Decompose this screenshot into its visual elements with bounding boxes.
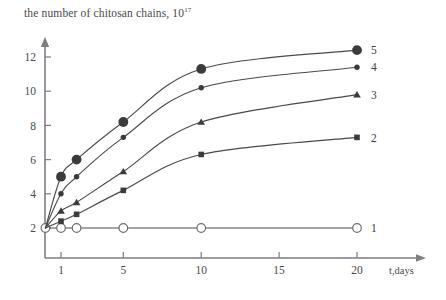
x-axis-tick-label: 20 <box>351 264 363 276</box>
data-point-small-circle-marker <box>74 174 79 179</box>
data-point-open-circle-marker <box>353 224 362 233</box>
data-point-large-circle-marker <box>118 117 128 127</box>
y-axis-tick-label: 4 <box>30 188 36 200</box>
x-axis-arrow-icon <box>416 254 426 262</box>
x-axis-tick-label: 1 <box>58 264 64 276</box>
series-label-3: 3 <box>371 89 377 101</box>
chart-container: the number of chitosan chains, 1017 2468… <box>0 0 446 300</box>
data-point-large-circle-marker <box>352 45 362 55</box>
data-point-large-circle-marker <box>56 172 66 182</box>
chart-series <box>45 45 361 228</box>
data-point-square-marker <box>74 212 80 218</box>
data-point-triangle-marker <box>57 207 65 213</box>
data-point-large-circle-marker <box>196 64 206 74</box>
y-axis-tick-label: 12 <box>25 51 37 63</box>
y-axis-tick-label: 8 <box>30 120 36 132</box>
series-line <box>45 67 357 228</box>
x-axis-caption: t,days <box>389 265 414 276</box>
y-axis-tick-label: 6 <box>30 154 36 166</box>
data-point-small-circle-marker <box>121 135 126 140</box>
chart-series <box>45 91 360 228</box>
x-axis-tick-label: 15 <box>273 264 285 276</box>
data-point-open-circle-marker <box>57 224 66 233</box>
series-group <box>41 45 362 232</box>
data-point-triangle-marker <box>353 91 361 97</box>
y-axis-tick-label: 10 <box>25 85 37 97</box>
data-point-triangle-marker <box>73 199 81 205</box>
chart-plot-svg: 2468101215101520t,days12345 <box>0 0 446 300</box>
data-point-open-circle-marker <box>72 224 81 233</box>
data-point-square-marker <box>198 152 204 158</box>
data-point-large-circle-marker <box>72 155 82 165</box>
series-label-2: 2 <box>371 132 377 144</box>
series-label-5: 5 <box>371 44 377 56</box>
series-label-1: 1 <box>371 222 377 234</box>
series-label-4: 4 <box>371 61 377 73</box>
data-point-small-circle-marker <box>354 65 359 70</box>
data-point-open-circle-marker <box>119 224 128 233</box>
x-axis-tick-label: 5 <box>120 264 126 276</box>
series-line <box>45 50 357 228</box>
data-point-square-marker <box>121 188 127 194</box>
y-axis-tick-label: 2 <box>30 222 36 234</box>
data-point-square-marker <box>58 218 64 224</box>
chart-series <box>41 224 361 233</box>
x-axis-tick-label: 10 <box>195 264 207 276</box>
data-point-small-circle-marker <box>58 191 63 196</box>
data-point-open-circle-marker <box>197 224 206 233</box>
series-line <box>45 95 357 228</box>
chart-series <box>45 135 359 228</box>
y-axis-arrow-icon <box>41 37 49 47</box>
data-point-triangle-marker <box>120 168 128 174</box>
series-line <box>45 137 357 228</box>
labels-group: 2468101215101520t,days12345 <box>25 44 414 276</box>
data-point-square-marker <box>354 135 360 141</box>
data-point-small-circle-marker <box>199 85 204 90</box>
